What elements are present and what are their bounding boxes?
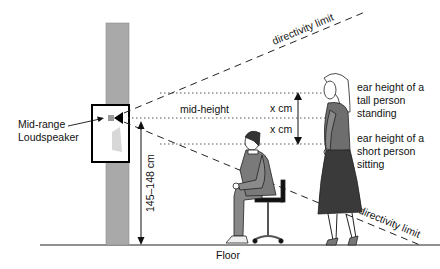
height-arrowhead-up [138, 121, 145, 129]
svg-text:tall person: tall person [357, 94, 406, 106]
svg-text:short person: short person [357, 145, 416, 157]
svg-text:Mid-range: Mid-range [18, 118, 65, 130]
loudspeaker [92, 105, 129, 162]
short-person-label: ear height of a short person sitting [357, 132, 424, 170]
svg-text:ear height of a: ear height of a [357, 132, 424, 144]
loudspeaker-placement-diagram: Floor Mid-range Loudspeaker directivity … [0, 0, 440, 269]
svg-text:sitting: sitting [357, 158, 385, 170]
floor-label: Floor [216, 249, 240, 261]
mid-height-label: mid-height [180, 103, 229, 115]
directivity-limit-lower-label: directivity limit [357, 204, 422, 240]
seated-person-figure [226, 131, 285, 243]
speaker-label: Mid-range Loudspeaker [18, 118, 79, 143]
standing-person-figure [318, 73, 362, 245]
svg-text:Loudspeaker: Loudspeaker [18, 131, 79, 143]
svg-text:standing: standing [357, 107, 397, 119]
tall-person-label: ear height of a tall person standing [357, 81, 424, 119]
height-range-label: 145–148 cm [144, 154, 156, 212]
x-cm-lower-label: x cm [270, 123, 292, 135]
svg-text:ear height of a: ear height of a [357, 81, 424, 93]
height-arrowhead-down [138, 237, 145, 245]
x-cm-upper-label: x cm [270, 102, 292, 114]
